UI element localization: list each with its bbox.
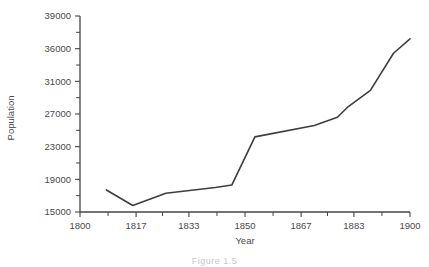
y-tick-label: 31000	[45, 76, 71, 87]
x-axis-title: Year	[235, 235, 254, 246]
y-tick-label: 39000	[45, 10, 71, 21]
data-series-line-0	[106, 39, 410, 206]
x-tick-label: 1850	[234, 220, 255, 231]
y-tick-label: 27000	[45, 108, 71, 119]
x-tick-label: 1883	[343, 220, 364, 231]
y-axis-title: Population	[5, 96, 16, 141]
x-tick-label: 1867	[291, 220, 312, 231]
y-tick-label: 23000	[45, 141, 71, 152]
y-tick-label: 36000	[45, 43, 71, 54]
figure-caption: Figure 1.5	[0, 256, 429, 267]
x-tick-label: 1900	[399, 220, 420, 231]
x-tick-label: 1800	[69, 220, 90, 231]
y-tick-label: 19000	[45, 174, 71, 185]
x-tick-label: 1833	[178, 220, 199, 231]
x-tick-label: 1817	[126, 220, 147, 231]
y-tick-label: 15000	[45, 206, 71, 217]
